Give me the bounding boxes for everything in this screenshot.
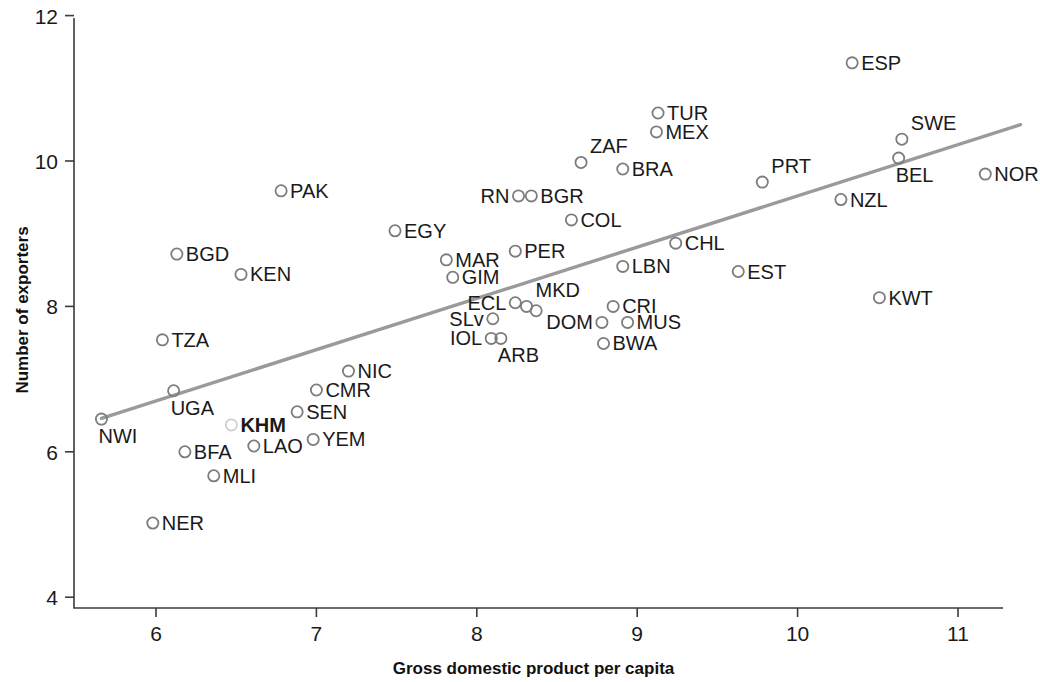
point-marker[interactable] [208,470,219,481]
point-marker[interactable] [847,57,858,68]
x-tick-label: 10 [786,622,809,645]
point-marker[interactable] [487,313,498,324]
data-point[interactable]: MLI [208,465,256,487]
data-point[interactable]: IOL [450,327,497,349]
point-label: MLI [223,465,256,487]
point-marker[interactable] [147,517,158,528]
point-label: BWA [613,332,658,354]
data-point[interactable]: LAO [248,435,303,457]
point-label: EST [747,261,786,283]
point-marker[interactable] [575,157,586,168]
point-marker[interactable] [652,107,663,118]
point-marker[interactable] [510,246,521,257]
point-label: ECL [467,292,506,314]
point-label: KEN [250,263,291,285]
point-label: BGD [186,243,229,265]
point-label: PRT [771,155,811,177]
data-point[interactable]: MEX [651,121,709,143]
point-marker[interactable] [276,185,287,196]
point-label: PER [524,240,565,262]
data-point[interactable]: ESP [847,52,902,74]
data-point[interactable]: SEN [292,401,348,423]
data-point[interactable]: CMR [311,379,371,401]
point-marker[interactable] [441,254,452,265]
data-point[interactable]: EST [733,261,787,283]
data-point[interactable]: BRA [617,158,673,180]
point-marker[interactable] [608,301,619,312]
point-label: LBN [632,255,671,277]
point-marker[interactable] [757,176,768,187]
point-marker[interactable] [389,225,400,236]
point-marker[interactable] [617,261,628,272]
data-point[interactable]: BFA [179,441,232,463]
point-marker[interactable] [343,366,354,377]
point-marker[interactable] [835,194,846,205]
data-point[interactable]: DOM [546,311,607,333]
data-point[interactable]: KHM [226,414,286,436]
data-point[interactable]: ARB [495,333,539,367]
data-point[interactable]: KEN [235,263,291,285]
point-marker[interactable] [526,190,537,201]
point-marker[interactable] [622,317,633,328]
point-label: KWT [888,287,932,309]
data-point[interactable]: BGD [171,243,229,265]
data-point[interactable] [531,305,542,316]
point-marker[interactable] [171,248,182,259]
x-tick: 7 [311,608,323,645]
point-marker[interactable] [513,190,524,201]
data-point[interactable]: MKD [521,279,580,312]
y-tick: 12 [35,5,74,28]
point-label: LAO [263,435,303,457]
data-point[interactable]: NZL [835,189,887,211]
point-marker[interactable] [292,406,303,417]
point-marker[interactable] [651,126,662,137]
point-marker[interactable] [733,266,744,277]
point-marker[interactable] [510,297,521,308]
data-point[interactable]: KWT [874,287,933,309]
x-axis-title: Gross domestic product per capita [393,659,675,678]
data-point[interactable]: EGY [389,220,446,242]
x-tick: 6 [150,608,162,645]
data-point[interactable]: PAK [276,180,330,202]
data-point[interactable]: BWA [598,332,658,354]
data-point[interactable]: PRT [757,155,811,188]
point-marker[interactable] [308,434,319,445]
point-marker[interactable] [598,338,609,349]
point-marker[interactable] [531,305,542,316]
point-label: BEL [896,164,934,186]
data-point[interactable]: SWE [896,112,956,145]
point-label: NWI [98,425,137,447]
point-marker[interactable] [226,419,237,430]
point-marker[interactable] [670,238,681,249]
point-marker[interactable] [566,214,577,225]
point-marker[interactable] [157,334,168,345]
point-label: NOR [994,163,1038,185]
data-point[interactable]: NOR [980,163,1039,185]
point-label: RN [481,185,510,207]
point-marker[interactable] [248,440,259,451]
point-marker[interactable] [447,272,458,283]
point-marker[interactable] [617,163,628,174]
y-tick-label: 6 [46,441,58,464]
data-point[interactable]: BGR [526,185,584,207]
point-marker[interactable] [596,317,607,328]
data-point[interactable]: ECL [467,292,521,314]
point-label: YEM [322,428,365,450]
data-point[interactable]: LBN [617,255,671,277]
point-marker[interactable] [235,269,246,280]
data-point[interactable]: YEM [308,428,366,450]
x-tick-label: 11 [947,622,969,645]
data-point[interactable]: COL [566,209,622,231]
point-marker[interactable] [980,168,991,179]
point-label: PAK [290,180,329,202]
point-marker[interactable] [896,134,907,145]
point-marker[interactable] [179,446,190,457]
point-label: BFA [194,441,232,463]
data-point[interactable]: PER [510,240,566,262]
data-point[interactable]: RN [481,185,524,207]
data-point[interactable]: TZA [157,329,210,351]
point-marker[interactable] [874,292,885,303]
point-marker[interactable] [311,384,322,395]
x-tick: 10 [786,608,809,645]
data-point[interactable]: NER [147,512,204,534]
